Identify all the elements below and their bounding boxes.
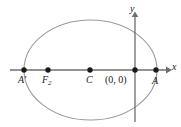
label-a-prime-text: A′ <box>18 74 26 85</box>
figure-canvas <box>0 0 181 127</box>
label-y-axis-text: y <box>130 3 134 14</box>
label-a-vertex: A <box>152 76 158 86</box>
label-f2-subscript: 2 <box>48 79 52 87</box>
label-y-axis: y <box>130 4 134 14</box>
ellipse-figure: A′ F2 C (0, 0) A x y <box>0 0 181 127</box>
label-origin-text: (0, 0) <box>105 74 127 85</box>
point-c <box>87 67 92 72</box>
label-origin: (0, 0) <box>105 75 127 85</box>
label-x-axis: x <box>172 62 176 72</box>
label-a-prime: A′ <box>18 75 26 85</box>
label-c-center-text: C <box>86 74 93 85</box>
label-x-axis-text: x <box>172 61 176 72</box>
label-f2: F2 <box>42 75 52 85</box>
point-a <box>153 67 158 72</box>
point-origin <box>132 67 137 72</box>
point-f2 <box>45 67 50 72</box>
label-a-vertex-text: A <box>152 75 158 86</box>
point-a-prime <box>21 67 26 72</box>
label-c-center: C <box>86 75 93 85</box>
